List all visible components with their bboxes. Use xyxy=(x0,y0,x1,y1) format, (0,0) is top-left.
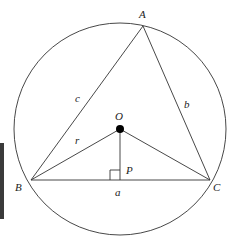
radius-oc xyxy=(120,129,210,180)
center-label-o: O xyxy=(115,110,123,122)
center-dot xyxy=(116,125,124,133)
vertex-label-a: A xyxy=(138,8,146,20)
right-angle-marker xyxy=(110,170,120,180)
side-label-c: c xyxy=(75,92,80,104)
vertex-label-c: C xyxy=(213,181,221,193)
side-label-b: b xyxy=(184,98,190,110)
circumcircle-diagram: A B C O P a b c r xyxy=(0,0,238,249)
radius-label-r: r xyxy=(75,134,80,146)
foot-label-p: P xyxy=(125,164,133,176)
vertex-label-b: B xyxy=(15,181,22,193)
side-label-a: a xyxy=(115,186,121,198)
